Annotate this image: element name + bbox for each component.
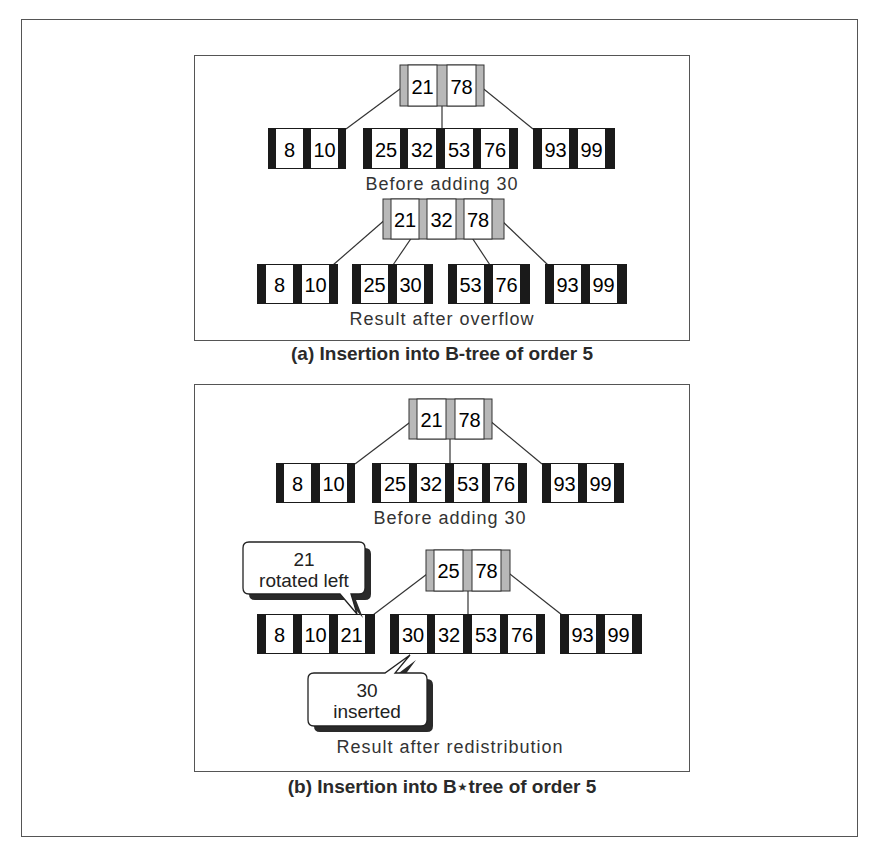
key: 93 bbox=[544, 139, 566, 161]
leaf-node: 93 99 bbox=[560, 614, 642, 654]
root-node: 21 32 78 bbox=[383, 199, 504, 239]
key: 78 bbox=[458, 409, 480, 431]
key: 21 bbox=[340, 624, 362, 646]
key: 53 bbox=[457, 473, 479, 495]
leaf-node: 8 10 bbox=[257, 264, 338, 304]
leaf-node: 93 99 bbox=[545, 264, 627, 304]
tree-label: Result after overflow bbox=[349, 309, 534, 329]
key: 8 bbox=[284, 139, 295, 161]
key: 78 bbox=[467, 209, 489, 231]
key: 30 bbox=[399, 274, 421, 296]
key: 99 bbox=[589, 473, 611, 495]
callout-inserted: 30 inserted bbox=[308, 655, 433, 732]
key: 93 bbox=[553, 473, 575, 495]
key: 8 bbox=[274, 624, 285, 646]
key: 25 bbox=[384, 473, 406, 495]
tree-label: Result after redistribution bbox=[336, 737, 563, 757]
tree-a-before: 21 78 8 10 25 32 53 76 bbox=[268, 65, 615, 194]
root-node: 21 78 bbox=[409, 399, 492, 439]
key: 78 bbox=[450, 76, 472, 98]
key: 8 bbox=[292, 473, 303, 495]
key: 30 bbox=[402, 624, 424, 646]
leaf-node: 8 10 bbox=[268, 128, 346, 169]
key: 10 bbox=[304, 274, 326, 296]
tree-diagram: 21 78 8 10 25 32 53 76 bbox=[0, 0, 874, 852]
key: 32 bbox=[430, 209, 452, 231]
callout-rotated-left: 21 rotated left bbox=[243, 542, 371, 618]
key: 25 bbox=[437, 560, 459, 582]
key: 53 bbox=[475, 624, 497, 646]
callout-line-1: 21 bbox=[293, 549, 314, 570]
leaf-node: 53 76 bbox=[448, 264, 530, 304]
root-node: 21 78 bbox=[400, 65, 484, 106]
key: 32 bbox=[438, 624, 460, 646]
key: 76 bbox=[484, 139, 506, 161]
tree-b-after: 25 78 8 10 21 30 32 53 76 bbox=[243, 542, 642, 757]
key: 8 bbox=[274, 274, 285, 296]
leaf-node: 8 10 bbox=[276, 463, 355, 503]
leaf-node: 25 32 53 76 bbox=[363, 128, 518, 169]
leaf-node: 93 99 bbox=[533, 128, 615, 169]
key: 21 bbox=[394, 209, 416, 231]
key: 53 bbox=[448, 139, 470, 161]
tree-label: Before adding 30 bbox=[373, 508, 526, 528]
key: 76 bbox=[493, 473, 515, 495]
leaf-node: 93 99 bbox=[542, 463, 624, 503]
key: 10 bbox=[304, 624, 326, 646]
key: 32 bbox=[420, 473, 442, 495]
key: 25 bbox=[363, 274, 385, 296]
callout-line-2: rotated left bbox=[259, 570, 349, 591]
key: 78 bbox=[475, 560, 497, 582]
btree-figure: (a) Insertion into B-tree of order 5 (b)… bbox=[0, 0, 874, 852]
key: 21 bbox=[411, 76, 433, 98]
tree-b-before: 21 78 8 10 25 32 53 76 bbox=[276, 399, 624, 528]
tree-label: Before adding 30 bbox=[365, 174, 518, 194]
key: 99 bbox=[580, 139, 602, 161]
key: 32 bbox=[411, 139, 433, 161]
key: 76 bbox=[495, 274, 517, 296]
key: 10 bbox=[313, 139, 335, 161]
key: 76 bbox=[511, 624, 533, 646]
key: 99 bbox=[607, 624, 629, 646]
leaf-node: 25 30 bbox=[352, 264, 433, 304]
tree-a-after: 21 32 78 8 10 25 30 5 bbox=[257, 199, 627, 329]
callout-line-1: 30 bbox=[356, 680, 377, 701]
key: 21 bbox=[420, 409, 442, 431]
leaf-node: 25 32 53 76 bbox=[372, 463, 527, 503]
key: 93 bbox=[556, 274, 578, 296]
leaf-node: 8 10 21 bbox=[257, 614, 375, 654]
key: 99 bbox=[592, 274, 614, 296]
key: 25 bbox=[375, 139, 397, 161]
key: 10 bbox=[322, 473, 344, 495]
key: 53 bbox=[459, 274, 481, 296]
root-node: 25 78 bbox=[426, 550, 510, 591]
callout-line-2: inserted bbox=[333, 701, 401, 722]
key: 93 bbox=[571, 624, 593, 646]
leaf-node: 30 32 53 76 bbox=[390, 614, 545, 654]
